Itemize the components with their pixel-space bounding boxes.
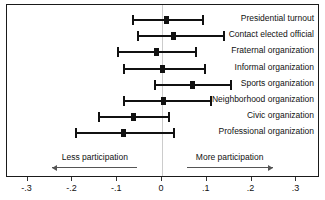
arrow-head-right-icon [268,165,273,171]
x-axis-tick [295,177,296,181]
ci-row: Fraternal organization [7,46,318,58]
category-label: Presidential turnout [241,12,314,24]
ci-row: Sports organization [7,79,318,91]
arrow-shaft [187,167,273,168]
ci-cap-lower [123,96,125,106]
ci-row: Neighborhood organization [7,95,318,107]
x-axis-tick [27,177,28,181]
ci-row: Informal organization [7,63,318,75]
forest-plot-chart: Presidential turnoutContact elected offi… [0,0,325,200]
more-participation-label: More participation [196,152,264,162]
ci-cap-upper [195,47,197,57]
x-axis-tick-label: -.2 [66,183,77,193]
plot-area: Presidential turnoutContact elected offi… [6,4,319,177]
arrow-head-left-icon [52,165,57,171]
ci-row: Civic organization [7,111,318,123]
x-axis-tick [71,177,72,181]
point-estimate-marker [121,129,126,137]
x-axis-tick-label: 0 [158,183,163,193]
ci-cap-lower [132,15,134,25]
ci-cap-lower [117,47,119,57]
confidence-interval-bar [137,35,224,37]
ci-row: Professional organization [7,127,318,139]
ci-row: Presidential turnout [7,14,318,26]
confidence-interval-bar [123,100,211,102]
ci-row: Contact elected official [7,30,318,42]
less-participation-label: Less participation [62,152,128,162]
category-label: Civic organization [247,109,314,121]
point-estimate-marker [160,65,165,73]
x-axis-tick [206,177,207,181]
x-axis-tick-label: .1 [202,183,210,193]
more-participation-arrow [187,164,273,171]
category-label: Sports organization [241,77,314,89]
ci-cap-upper [230,80,232,90]
x-axis-tick-label: -.1 [111,183,122,193]
category-label: Contact elected official [229,28,314,40]
ci-cap-upper [223,31,225,41]
point-estimate-marker [131,113,136,121]
category-label: Neighborhood organization [212,93,314,105]
point-estimate-marker [164,16,169,24]
x-axis-tick [251,177,252,181]
ci-cap-upper [173,128,175,138]
less-participation-arrow [52,164,137,171]
category-label: Informal organization [235,61,314,73]
ci-cap-upper [168,112,170,122]
category-label: Professional organization [219,125,314,137]
ci-cap-lower [154,80,156,90]
x-axis-tick [116,177,117,181]
x-axis-tick-label: .2 [247,183,255,193]
ci-cap-lower [98,112,100,122]
x-axis-tick-label: -.3 [21,183,32,193]
point-estimate-marker [154,48,159,56]
category-label: Fraternal organization [231,44,314,56]
ci-cap-upper [204,64,206,74]
x-axis-tick-label: .3 [292,183,300,193]
x-axis: -.3-.2-.10.1.2.3 [0,177,325,200]
ci-cap-lower [75,128,77,138]
ci-cap-upper [202,15,204,25]
point-estimate-marker [161,97,166,105]
x-axis-tick [161,177,162,181]
ci-cap-lower [137,31,139,41]
ci-cap-lower [123,64,125,74]
point-estimate-marker [190,81,195,89]
point-estimate-marker [171,32,176,40]
arrow-shaft [52,167,137,168]
